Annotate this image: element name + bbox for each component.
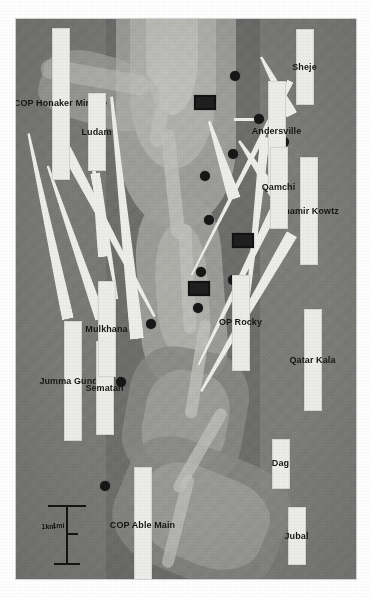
marker-op-rocky[interactable]: [232, 233, 254, 248]
label-shamir-kowtz[interactable]: Shamir Kowtz: [300, 157, 318, 265]
scale-bar: 1mi 1km: [38, 505, 94, 567]
label-qatar-kala[interactable]: Qatar Kala: [304, 309, 322, 411]
label-cop-able-main[interactable]: COP Able Main: [134, 467, 152, 579]
label-andersville-text: Andersville: [252, 127, 302, 136]
label-jubal[interactable]: Jubal: [288, 507, 306, 565]
label-cop-honaker-miracle[interactable]: COP Honaker Miracle: [52, 28, 70, 180]
label-mulkhana[interactable]: Mulkhana: [98, 281, 116, 377]
label-op-rocky-text: OP Rocky: [219, 318, 262, 327]
label-dag-text: Dag: [272, 459, 289, 468]
marker-cop-honaker-miracle[interactable]: [188, 281, 210, 296]
label-qamchi[interactable]: Qamchi: [270, 147, 288, 229]
scale-bar-km-label: 1km: [41, 522, 55, 529]
marker-mulkhana[interactable]: [228, 149, 238, 159]
label-jumma-gundai[interactable]: Jumma Gundai: [64, 321, 82, 441]
scale-bar-tick-mid: [66, 533, 78, 535]
marker-ludam[interactable]: [193, 303, 203, 313]
label-sematan-text: Sematan: [85, 383, 123, 392]
map-plate-wrapper: Sheje Andersville Shamir Kowtz Qamchi CO…: [15, 18, 356, 579]
marker-jubal[interactable]: [230, 71, 240, 81]
label-jubal-text: Jubal: [284, 531, 308, 540]
marker-shamir-kowtz[interactable]: [146, 319, 156, 329]
label-mulkhana-text: Mulkhana: [85, 324, 127, 333]
map-plate: Sheje Andersville Shamir Kowtz Qamchi CO…: [16, 19, 356, 579]
label-ludam[interactable]: Ludam: [88, 93, 106, 171]
marker-cop-able-main[interactable]: [194, 95, 216, 110]
label-qamchi-text: Qamchi: [262, 183, 296, 192]
marker-andersville[interactable]: [100, 481, 110, 491]
marker-hub-center[interactable]: [196, 267, 206, 277]
map-page: Sheje Andersville Shamir Kowtz Qamchi CO…: [0, 0, 371, 597]
label-sheje-text: Sheje: [292, 62, 317, 71]
scale-bar-tick-end: [54, 563, 80, 565]
label-ludam-text: Ludam: [81, 127, 111, 136]
label-qatar-kala-text: Qatar Kala: [289, 355, 335, 364]
label-op-rocky[interactable]: OP Rocky: [232, 275, 250, 371]
marker-sematan[interactable]: [200, 171, 210, 181]
label-dag[interactable]: Dag: [272, 439, 290, 489]
label-cop-able-main-text: COP Able Main: [110, 521, 175, 530]
marker-qatar-kala[interactable]: [254, 114, 264, 124]
marker-jumma-gundai[interactable]: [204, 215, 214, 225]
label-sheje[interactable]: Sheje: [296, 29, 314, 105]
scale-bar-tick-start: [48, 505, 86, 507]
